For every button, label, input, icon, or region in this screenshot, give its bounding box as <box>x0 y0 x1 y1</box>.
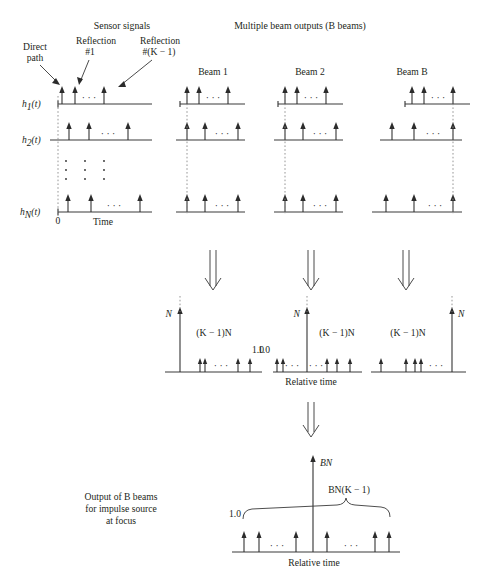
summary-output-plot: BN BN(K − 1) 1.0 · · · · · · Relative ti… <box>229 455 400 568</box>
beam-2-unit-label: 1.0 <box>258 344 270 355</box>
sensor-row-hN-spikes <box>65 194 142 212</box>
beam-B-row1-ellipsis: · · · <box>431 92 445 103</box>
summary-brace <box>243 498 390 519</box>
summary-peak-label: BN <box>320 457 333 468</box>
figure-canvas: Sensor signals Multiple beam outputs (B … <box>0 0 498 578</box>
beam-1-row1-ellipsis: · · · <box>206 92 220 103</box>
pointer-arrow-reflectionK <box>118 60 152 87</box>
summary-caption-line2: for impulse source <box>85 503 156 514</box>
sensor-row-h1: h1(t) · · · <box>22 86 152 112</box>
sensor-row-hN: hN(t) · · · 0 Time <box>20 194 152 227</box>
beam-B-row2-ellipsis: · · · <box>426 128 440 139</box>
down-double-arrow-beam-2 <box>303 250 319 290</box>
sensor-axis-origin-label: 0 <box>56 215 61 226</box>
beam-1-peak-label: N <box>165 308 173 319</box>
beam-2-row1-ellipsis: · · · <box>304 92 318 103</box>
label-direct-path-2: path <box>27 52 44 63</box>
beam-B-area-label: (K − 1)N <box>390 327 425 339</box>
sensor-row-hN-label: hN(t) <box>20 206 40 220</box>
down-double-arrow-beam-1 <box>205 250 221 290</box>
beam-2-output-ellipsis-right: · · · <box>309 360 323 371</box>
beam-1-output-plot: N (K − 1)N · · · 1.0 <box>165 307 265 372</box>
beam-1-title: Beam 1 <box>198 66 228 77</box>
beamforming-figure: Sensor signals Multiple beam outputs (B … <box>0 0 498 578</box>
beam-2-area-label: (K − 1)N <box>319 327 354 339</box>
summary-caption: Output of B beams for impulse source at … <box>85 491 158 526</box>
sensor-row-h2-ellipsis: · · · <box>101 128 115 139</box>
beam-B-peak-label: N <box>457 308 465 319</box>
sensor-row-h1-label: h1(t) <box>22 98 41 112</box>
beam-1-area-label: (K − 1)N <box>196 327 231 339</box>
sensor-row-hN-ellipsis: · · · <box>107 200 121 211</box>
beam-2-title: Beam 2 <box>295 66 325 77</box>
summary-ellipsis-left: · · · <box>270 540 284 551</box>
down-double-arrow-beam-B <box>398 250 414 290</box>
beam-1-output-ellipsis: · · · <box>214 360 228 371</box>
beam-1-row3-ellipsis: · · · <box>215 200 229 211</box>
summary-caption-line3: at focus <box>106 515 136 526</box>
pointer-arrow-reflection1 <box>77 60 89 85</box>
beam-2-output-plot: N (K − 1)N · · · · · · 1.0 Relative time <box>258 307 362 387</box>
title-sensor-signals: Sensor signals <box>94 20 151 31</box>
beam-B-output-small-spikes <box>379 358 423 372</box>
summary-caption-line1: Output of B beams <box>85 491 158 502</box>
beam-2-row3-ellipsis: · · · <box>313 200 327 211</box>
summary-brace-label: BN(K − 1) <box>328 484 370 496</box>
label-reflectionK-2: #(K − 1) <box>142 46 175 58</box>
beam-B-top-rows: · · · · · · · · · <box>372 86 470 212</box>
pointer-arrow-direct-path <box>40 65 60 85</box>
label-reflection1-2: #1 <box>85 46 95 57</box>
summary-axis-label: Relative time <box>288 557 339 568</box>
beam-B-output-ellipsis: · · · <box>429 360 443 371</box>
title-beam-outputs: Multiple beam outputs (B beams) <box>234 20 366 32</box>
beam-2-top-rows: · · · · · · · · · <box>274 86 343 212</box>
sensor-row-h1-ellipsis: · · · <box>82 92 96 103</box>
label-reflection1-1: Reflection <box>76 35 116 46</box>
beam-1-row2-ellipsis: · · · <box>215 128 229 139</box>
beam-2-output-ellipsis-left: · · · <box>285 360 299 371</box>
sensor-row-h2: h2(t) · · · <box>22 122 152 148</box>
label-reflectionK-1: Reflection <box>140 35 180 46</box>
label-direct-path-1: Direct <box>23 41 47 52</box>
beam-2-peak-label: N <box>293 308 301 319</box>
sensor-row-h2-spikes <box>66 122 130 140</box>
sensor-row-h2-label: h2(t) <box>22 134 41 148</box>
beam-2-row2-ellipsis: · · · <box>313 128 327 139</box>
sensor-axis-time-label: Time <box>93 216 113 227</box>
beam-B-row3-ellipsis: · · · <box>428 200 442 211</box>
beam-B-title: Beam B <box>396 66 427 77</box>
beam-2-axis-label: Relative time <box>285 376 336 387</box>
beam-B-output-plot: N (K − 1)N · · · <box>371 307 466 372</box>
sensor-rows-vertical-ellipsis <box>65 160 105 180</box>
beam-1-top-rows: · · · · · · · · · <box>176 86 245 212</box>
down-double-arrow-summary <box>303 402 319 437</box>
summary-unit-label: 1.0 <box>229 508 241 519</box>
summary-ellipsis-right: · · · <box>344 540 358 551</box>
